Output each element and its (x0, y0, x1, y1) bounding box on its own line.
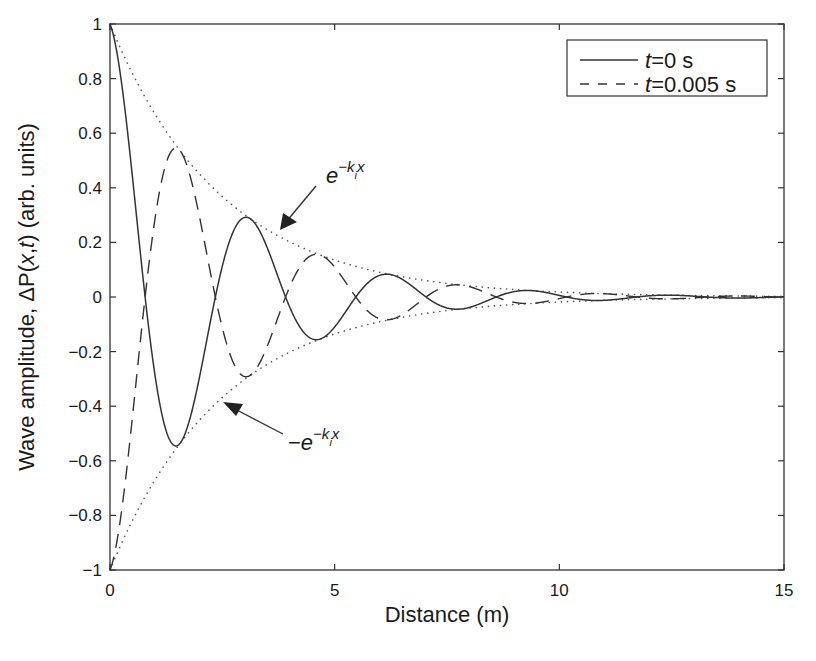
x-tick-label: 5 (330, 581, 339, 600)
y-tick-label: −0.2 (68, 343, 102, 362)
y-tick-label: 0.8 (78, 70, 102, 89)
upper-envelope-label: e−kix (326, 158, 365, 188)
x-tick-label: 10 (550, 581, 569, 600)
damped-wave-chart: 051015 10.80.60.40.20−0.2−0.4−0.6−0.8−1 … (0, 0, 816, 661)
y-tick-label: −0.8 (68, 506, 102, 525)
lower-envelope-annotation: −e−kix (223, 402, 340, 455)
lower-envelope-line (110, 298, 784, 570)
y-tick-label: 1 (93, 15, 102, 34)
series-t-0.005s-line (110, 148, 784, 570)
x-axis-label: Distance (m) (385, 602, 510, 627)
lower-arrow-head-icon (223, 402, 243, 416)
lower-envelope-label: −e−kix (288, 425, 340, 455)
y-tick-label: −0.4 (68, 397, 102, 416)
legend-item-t0: t=0 s (645, 48, 693, 73)
plot-area (110, 24, 784, 570)
y-axis-label: Wave amplitude, ΔP(x,t) (arb. units) (14, 123, 39, 471)
axes-frame (110, 24, 784, 570)
y-tick-label: −0.6 (68, 452, 102, 471)
y-tick-label: −1 (83, 561, 102, 580)
x-tick-label: 0 (105, 581, 114, 600)
upper-arrow-head-icon (280, 213, 297, 230)
y-tick-label: 0 (93, 288, 102, 307)
lower-arrow-line (233, 408, 283, 434)
legend-item-t0005: t=0.005 s (645, 72, 736, 97)
axis-ticks (110, 24, 784, 570)
legend: t=0 s t=0.005 s (567, 40, 767, 97)
x-tick-label: 15 (775, 581, 794, 600)
upper-arrow-line (286, 186, 316, 222)
y-tick-label: 0.4 (78, 179, 102, 198)
y-tick-labels: 10.80.60.40.20−0.2−0.4−0.6−0.8−1 (68, 15, 102, 580)
y-tick-label: 0.2 (78, 233, 102, 252)
upper-envelope-annotation: e−kix (280, 158, 365, 230)
x-tick-labels: 051015 (105, 581, 793, 600)
y-tick-label: 0.6 (78, 124, 102, 143)
